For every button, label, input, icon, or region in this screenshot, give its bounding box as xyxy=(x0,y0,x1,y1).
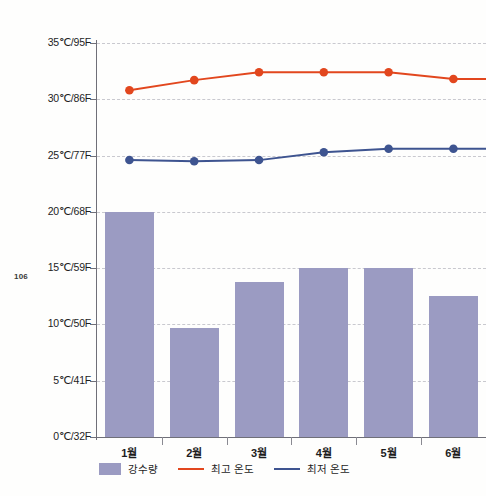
y-axis-tick-label: 35℃/95F xyxy=(11,36,91,48)
data-point-marker xyxy=(125,86,134,95)
data-point-marker xyxy=(255,156,264,165)
y-axis-tick-label: 30℃/86F xyxy=(11,92,91,104)
legend-item: 최저 온도 xyxy=(274,461,350,476)
plot-area xyxy=(97,43,486,437)
y-axis-tick-label: 15℃/59F xyxy=(11,261,91,273)
data-point-marker xyxy=(384,145,393,154)
x-axis-tick-label: 4월 xyxy=(292,444,356,460)
legend-line-swatch-icon xyxy=(178,468,204,470)
x-axis-tick-label: 3월 xyxy=(227,444,291,460)
y-axis-tick-label: 5℃/41F xyxy=(11,374,91,386)
legend-item: 강수량 xyxy=(99,461,158,476)
y-axis-tick-mark xyxy=(90,43,97,44)
x-axis-tick-label: 1월 xyxy=(97,444,161,460)
x-axis-tick-label: 2월 xyxy=(162,444,226,460)
data-point-marker xyxy=(255,68,264,77)
line-path xyxy=(129,149,486,161)
x-axis-tick-label: 5월 xyxy=(357,444,421,460)
line-path xyxy=(129,72,486,90)
y-axis-tick-label: 25℃/77F xyxy=(11,149,91,161)
legend-line-swatch-icon xyxy=(274,468,300,470)
y-axis-tick-mark xyxy=(90,99,97,100)
y-axis-tick-mark xyxy=(90,268,97,269)
legend-label: 강수량 xyxy=(128,461,158,476)
data-point-marker xyxy=(449,75,458,84)
x-axis-tick-label: 6월 xyxy=(421,444,485,460)
data-point-marker xyxy=(125,156,134,165)
legend-item: 최고 온도 xyxy=(178,461,254,476)
data-point-marker xyxy=(190,157,199,166)
data-point-marker xyxy=(320,148,329,157)
legend-bar-swatch-icon xyxy=(99,463,121,475)
legend-label: 최고 온도 xyxy=(211,461,254,476)
line-series-layer xyxy=(97,43,486,437)
y-axis-tick-mark xyxy=(90,324,97,325)
data-point-marker xyxy=(384,68,393,77)
y-axis-tick-label: 20℃/68F xyxy=(11,205,91,217)
page-folio-number: 106 xyxy=(14,272,28,281)
y-axis-tick-mark xyxy=(90,156,97,157)
y-axis-tick-mark xyxy=(90,437,97,438)
y-axis-tick-mark xyxy=(90,212,97,213)
chart-page: 106 0℃/32F5℃/41F10℃/50F15℃/59F20℃/68F25℃… xyxy=(0,0,486,496)
data-point-marker xyxy=(449,145,458,154)
y-axis-tick-label: 0℃/32F xyxy=(11,430,91,442)
y-axis-tick-mark xyxy=(90,381,97,382)
legend-label: 최저 온도 xyxy=(307,461,350,476)
data-point-marker xyxy=(190,76,199,85)
chart-legend: 강수량최고 온도최저 온도 xyxy=(99,461,370,476)
data-point-marker xyxy=(320,68,329,77)
y-axis-tick-label: 10℃/50F xyxy=(11,317,91,329)
